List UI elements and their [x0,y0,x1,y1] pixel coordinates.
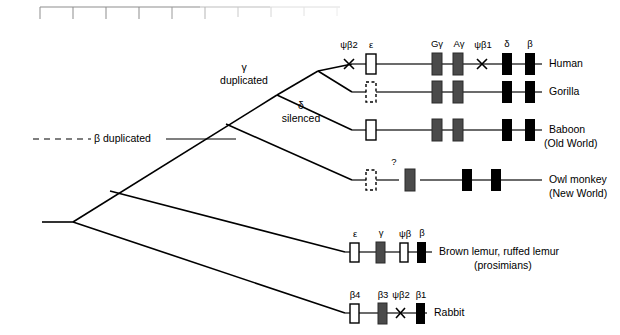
gene-box-white [350,304,359,323]
event-label-delta-silenced-line1: δ [298,99,304,111]
event-label-gamma-duplicated-line2: duplicated [220,74,268,86]
species-sublabel-owl-monkey: (New World) [549,187,607,199]
gene-label-lemur-epsilon: ε [353,229,357,240]
diagram-vector-layer [0,0,620,335]
species-label-owl-monkey: Owl monkey [549,173,607,185]
gene-box-gray [453,53,463,75]
gene-boxes-human [344,53,535,75]
gene-label-delta: δ [504,39,509,50]
gene-label-rabbit-beta-4: β4 [350,290,361,301]
gene-box-white [366,54,376,74]
species-sublabel-lemurs: (prosimians) [474,259,532,271]
gene-label-lemur-gamma: γ [379,228,384,239]
gene-box-gray [432,81,442,103]
species-label-lemurs: Brown lemur, ruffed lemur [439,245,559,257]
gene-box-gray [432,53,442,75]
event-label-delta-silenced-line2: silenced [282,112,321,124]
gene-label-beta: β [527,39,532,50]
gene-box-black [491,169,501,191]
gene-box-black [502,81,512,103]
event-label-beta-duplicated: β duplicated [91,132,154,144]
species-label-gorilla: Gorilla [549,85,579,97]
event-label-gamma-duplicated-line1: γ [241,61,246,73]
gene-box-gray [453,119,463,141]
gene-box-black [416,303,425,324]
tree-branch-upper-main [73,95,277,222]
gene-label-lemur-psi-beta: ψβ [399,229,411,240]
species-label-baboon: Baboon [549,123,585,135]
gene-box-black [417,242,426,263]
tree-branch-rabbit [73,222,345,313]
gene-box-dashed [366,82,376,102]
gene-label-g-gamma: Gγ [431,39,443,50]
gene-label-a-gamma: Aγ [453,39,464,50]
top-ruler [40,7,340,19]
gene-box-dashed [366,170,376,190]
gene-label-rabbit-beta-3: β3 [378,290,389,301]
phylogenetic-tree [42,64,352,313]
gene-box-white [400,243,408,262]
gene-label-epsilon: ε [369,40,373,51]
gene-label-psi-beta-2: ψβ2 [340,40,358,51]
gene-box-black [525,119,535,141]
tree-branch-owl-monkey [226,124,352,180]
tree-branch-gorilla [318,71,352,92]
gene-box-white [350,243,359,262]
gene-box-white [366,120,376,140]
gene-box-gray [405,169,415,191]
gene-label-lemur-beta: β [419,228,424,239]
gene-box-gray [432,119,442,141]
gene-box-black [525,81,535,103]
gene-label-rabbit-psi-beta-2: ψβ2 [392,290,410,301]
species-sublabel-baboon: (Old World) [544,137,597,149]
tree-branch-apes-node [277,71,318,95]
gene-box-black [525,53,535,75]
gene-box-gray [376,242,385,263]
gene-label-unknown: ? [391,157,396,168]
gene-box-black [502,53,512,75]
gene-label-psi-beta-1: ψβ1 [474,40,492,51]
gene-box-gray [378,303,387,324]
tree-branch-lemur [110,191,345,252]
species-label-rabbit: Rabbit [434,306,464,318]
figure-canvas: β duplicated γ duplicated δ silenced ψβ2… [0,0,620,335]
gene-box-gray [453,81,463,103]
gene-label-rabbit-beta-1: β1 [416,290,427,301]
gene-box-black [462,169,472,191]
gene-box-black [502,119,512,141]
species-label-human: Human [549,57,583,69]
